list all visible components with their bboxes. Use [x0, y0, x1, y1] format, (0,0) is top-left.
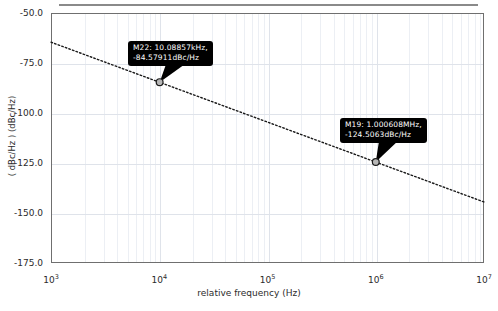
y-tick-label: -175.0 [14, 259, 43, 268]
x-tick-label: 104 [151, 276, 167, 285]
grid-line-vertical-minor [452, 14, 453, 262]
grid-line-vertical-minor [264, 14, 265, 262]
x-tick-label: 103 [43, 276, 59, 285]
grid-line-vertical-minor [428, 14, 429, 262]
grid-line-vertical-minor [301, 14, 302, 262]
marker-callout-m19[interactable]: M19: 1.000608MHz, -124.5063dBc/Hz [340, 118, 427, 143]
marker-callout-m22-line1: M22: 10.08857kHz, [133, 43, 208, 53]
marker-callout-m22[interactable]: M22: 10.08857kHz, -84.57911dBc/Hz [128, 41, 213, 66]
x-axis-title: relative frequency (Hz) [0, 288, 498, 298]
grid-line-vertical-minor [442, 14, 443, 262]
y-tick-major [0, 183, 6, 184]
grid-line-vertical-major [269, 14, 270, 262]
marker-callout-m19-line1: M19: 1.000608MHz, [345, 120, 422, 130]
y-tick-label: -75.0 [20, 59, 43, 68]
grid-line-vertical-minor [85, 14, 86, 262]
grid-line-vertical-minor [252, 14, 253, 262]
grid-line-vertical-minor [244, 14, 245, 262]
x-tick-label: 105 [260, 276, 276, 285]
x-tick-label: 107 [476, 276, 492, 285]
grid-line-vertical-minor [104, 14, 105, 262]
grid-line-vertical-minor [334, 14, 335, 262]
grid-line-vertical-minor [320, 14, 321, 262]
grid-line-vertical-minor [236, 14, 237, 262]
grid-line-vertical-minor [461, 14, 462, 262]
grid-line-horizontal-major [52, 214, 483, 215]
y-axis-title: ( dBc/Hz ) (dBc/Hz) [7, 76, 17, 196]
grid-line-vertical-minor [475, 14, 476, 262]
x-tick-label: 106 [368, 276, 384, 285]
grid-line-vertical-minor [468, 14, 469, 262]
y-tick-label: -50.0 [20, 9, 43, 18]
phase-noise-figure: -50.0-75.0-100.0-125.0-150.0-175.0 10310… [0, 0, 498, 311]
marker-callout-m19-line2: -124.5063dBc/Hz [345, 130, 422, 140]
grid-line-vertical-minor [258, 14, 259, 262]
top-trace-artifact [59, 4, 478, 6]
grid-line-vertical-minor [117, 14, 118, 262]
grid-line-horizontal-major [52, 114, 483, 115]
grid-line-vertical-minor [225, 14, 226, 262]
grid-line-horizontal-major [52, 64, 483, 65]
y-tick-label: -125.0 [14, 159, 43, 168]
grid-line-horizontal-major [52, 164, 483, 165]
grid-line-vertical-minor [480, 14, 481, 262]
y-tick-label: -150.0 [14, 209, 43, 218]
marker-callout-m22-line2: -84.57911dBc/Hz [133, 53, 208, 63]
y-tick-label: -100.0 [14, 109, 43, 118]
